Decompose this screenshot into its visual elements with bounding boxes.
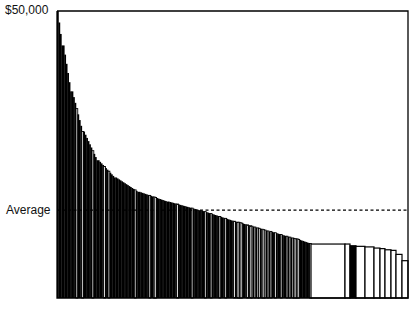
bar xyxy=(385,250,391,298)
bar xyxy=(365,247,374,298)
bar xyxy=(391,250,396,298)
bar xyxy=(402,261,408,298)
bars-group xyxy=(57,11,408,298)
bar xyxy=(380,249,385,298)
bar-chart xyxy=(0,0,415,310)
bar xyxy=(350,246,356,298)
bar xyxy=(356,246,365,298)
bar xyxy=(311,244,345,298)
bar xyxy=(374,248,380,298)
bar xyxy=(345,244,350,298)
bar xyxy=(396,254,402,298)
